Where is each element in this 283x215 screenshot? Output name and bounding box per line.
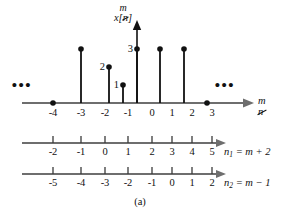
m-tick-label-minus2: -2 — [101, 108, 110, 119]
n2-tick-label-minus5: -5 — [49, 178, 58, 189]
n2-tick-label-1: 1 — [189, 178, 194, 189]
stem-dot-m-3 — [204, 100, 210, 106]
n2-tick-label-minus1: -1 — [148, 178, 157, 189]
signal-label: m x[n] — [114, 3, 132, 24]
stem-dot-m-2 — [181, 46, 187, 52]
n1-subscript: 1 — [229, 150, 233, 159]
stem-dot-m-0 — [134, 46, 140, 52]
left-ellipsis: ••• — [12, 78, 32, 93]
n2-subscript: 2 — [229, 181, 233, 190]
signal-label-struck-n: n — [123, 13, 128, 24]
n2-tick-label-minus3: -3 — [101, 178, 110, 189]
stem-dot-m-1 — [157, 46, 163, 52]
n1-tick-label-4: 4 — [189, 147, 194, 158]
value-label-m-minus1: 1 — [114, 80, 119, 91]
n2-tick-label-minus2: -2 — [124, 178, 133, 189]
n2-tick-label-2: 2 — [209, 178, 214, 189]
m-axis-name: m n — [258, 95, 266, 117]
stem-dot-m-minus4 — [50, 100, 56, 106]
n1-tick-label-3: 3 — [169, 147, 174, 158]
m-axis-name-correction: m — [258, 95, 266, 106]
n1-tick-label-5: 5 — [209, 147, 214, 158]
value-label-m-minus2: 2 — [100, 62, 105, 73]
n1-tick-label-minus1: -1 — [77, 147, 86, 158]
m-tick-label-0: 0 — [149, 108, 154, 119]
value-label-m-0: 3 — [128, 44, 133, 55]
n1-tick-label-0: 0 — [102, 147, 107, 158]
right-ellipsis: ••• — [215, 78, 235, 93]
n1-tick-label-1: 1 — [125, 147, 130, 158]
m-axis-arrowhead — [243, 99, 254, 108]
figure-panel: m x[n] 2 1 3 ••• ••• m n -4 -3 -2 -1 0 1… — [0, 0, 283, 215]
m-axis-name-struck-n: n — [258, 106, 266, 117]
m-tick-label-1: 1 — [169, 108, 174, 119]
m-tick-label-2: 2 — [189, 108, 194, 119]
n2-tick-label-0: 0 — [169, 178, 174, 189]
stem-group — [50, 46, 210, 106]
stem-dot-m-minus2 — [106, 64, 112, 70]
n1-rhs: = m + 2 — [236, 146, 271, 157]
figure-caption: (a) — [134, 197, 146, 208]
n1-tick-label-2: 2 — [149, 147, 154, 158]
n2-axis-name: n2 = m − 1 — [224, 178, 271, 189]
n1-tick-label-minus2: -2 — [49, 147, 58, 158]
n1-axis-name: n1 = m + 2 — [224, 147, 271, 158]
m-tick-label-minus3: -3 — [77, 108, 86, 119]
stem-dot-m-minus1 — [120, 82, 126, 88]
signal-label-original: x[n] — [114, 13, 132, 24]
stem-dot-m-minus3 — [78, 46, 84, 52]
vertical-axis-arrowhead — [133, 20, 141, 30]
n2-tick-label-minus4: -4 — [77, 178, 86, 189]
n2-rhs: = m − 1 — [236, 177, 271, 188]
m-tick-label-minus4: -4 — [49, 108, 58, 119]
m-tick-label-3: 3 — [209, 108, 214, 119]
m-tick-label-minus1: -1 — [124, 108, 133, 119]
